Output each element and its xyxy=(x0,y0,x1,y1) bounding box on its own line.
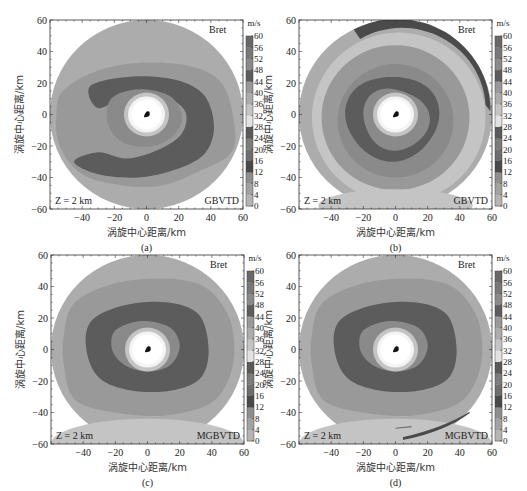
x-axis-label: 涡旋中心距离/km xyxy=(356,461,435,473)
x-tick-label: 60 xyxy=(239,447,249,458)
colorbar-tick-label: 52 xyxy=(503,54,512,64)
colorbar-tick-label: 28 xyxy=(503,122,513,132)
colorbar-band xyxy=(495,81,502,93)
y-tick-label: 40 xyxy=(286,281,296,292)
colorbar-tick-label: 24 xyxy=(503,368,513,378)
panel-caption: (d) xyxy=(390,477,402,489)
colorbar-tick-label: 4 xyxy=(503,190,508,200)
colorbar-band xyxy=(495,70,502,82)
colorbar-tick-label: 16 xyxy=(503,391,513,401)
y-tick-label: −60 xyxy=(31,204,47,215)
colorbar-tick-label: 40 xyxy=(503,323,513,333)
y-tick-label: 40 xyxy=(38,281,48,292)
colorbar-tick-label: 36 xyxy=(503,334,513,344)
colorbar-band xyxy=(495,384,502,396)
x-axis-label: 涡旋中心距离/km xyxy=(108,461,187,473)
method-label: GBVTD xyxy=(205,195,239,206)
colorbar-tick-label: 24 xyxy=(503,133,513,143)
x-tick-label: −40 xyxy=(75,447,91,458)
x-tick-label: −40 xyxy=(74,212,90,223)
colorbar-tick-label: 0 xyxy=(503,436,508,446)
colorbar-tick-label: 4 xyxy=(503,425,508,435)
colorbar-tick-label: 44 xyxy=(503,312,513,322)
x-tick-label: 20 xyxy=(175,447,185,458)
y-axis-label: 涡旋中心距离/km xyxy=(13,75,25,154)
y-tick-label: −60 xyxy=(280,439,296,450)
y-tick-label: 0 xyxy=(291,344,296,355)
y-tick-label: −20 xyxy=(31,141,47,152)
colorbar-band xyxy=(495,161,502,173)
x-tick-label: 0 xyxy=(144,212,149,223)
method-label: GBVTD xyxy=(454,195,488,206)
y-tick-label: 0 xyxy=(43,344,48,355)
colorbar-tick-label: 12 xyxy=(503,402,512,412)
panel-d: −40−2002040606040200−20−40−60 Bret Z = 2… xyxy=(249,235,512,480)
colorbar-tick-label: 40 xyxy=(503,88,513,98)
colorbar-band xyxy=(495,149,502,161)
panel-a: −40−2002040606040200−20−40−60 Bret Z = 2… xyxy=(0,0,263,245)
colorbar-tick-label: 48 xyxy=(503,300,513,310)
colorbar-band xyxy=(495,172,502,184)
level-label: Z = 2 km xyxy=(55,195,92,206)
storm-label: Bret xyxy=(210,259,227,270)
y-axis-label: 涡旋中心距离/km xyxy=(14,310,26,389)
y-tick-label: 20 xyxy=(38,313,48,324)
colorbar-tick-label: 20 xyxy=(503,380,513,390)
level-label: Z = 2 km xyxy=(304,430,341,441)
level-label: Z = 2 km xyxy=(304,195,341,206)
colorbar-tick-label: 36 xyxy=(503,99,513,109)
colorbar-band xyxy=(495,183,502,195)
y-tick-label: 60 xyxy=(38,250,48,261)
method-label: MGBVTD xyxy=(197,430,240,441)
x-tick-label: −40 xyxy=(323,212,339,223)
colorbar-band xyxy=(495,294,502,306)
colorbar-band xyxy=(495,373,502,385)
colorbar: m/s60565248444036322824201612840 xyxy=(495,18,513,211)
colorbar-tick-label: 32 xyxy=(503,346,512,356)
colorbar-band xyxy=(495,104,502,116)
colorbar-unit: m/s xyxy=(496,253,510,263)
panel-caption: (c) xyxy=(142,477,153,489)
y-tick-label: −20 xyxy=(280,141,296,152)
method-label: MGBVTD xyxy=(445,430,488,441)
level-label: Z = 2 km xyxy=(56,430,93,441)
y-tick-label: −40 xyxy=(280,172,296,183)
y-axis-label: 涡旋中心距离/km xyxy=(262,310,274,389)
colorbar-band xyxy=(495,93,502,105)
colorbar-tick-label: 32 xyxy=(503,111,512,121)
panel-svg: −40−2002040606040200−20−40−60 Bret Z = 2… xyxy=(249,0,512,245)
x-tick-label: 40 xyxy=(206,212,216,223)
colorbar-band xyxy=(495,305,502,317)
colorbar-tick-label: 0 xyxy=(503,201,508,211)
plot-area xyxy=(299,19,492,222)
colorbar-band xyxy=(495,396,502,408)
y-tick-label: 0 xyxy=(291,109,296,120)
colorbar-tick-label: 44 xyxy=(503,77,513,87)
colorbar-band xyxy=(495,407,502,419)
colorbar-tick-label: 56 xyxy=(503,278,513,288)
panel-c: −40−2002040606040200−20−40−60 Bret Z = 2… xyxy=(1,235,264,480)
y-tick-label: 40 xyxy=(37,46,47,57)
colorbar-unit: m/s xyxy=(496,18,510,28)
x-tick-label: −40 xyxy=(323,447,339,458)
x-tick-label: −20 xyxy=(356,212,372,223)
wind-field xyxy=(299,19,492,222)
x-tick-label: 40 xyxy=(455,447,465,458)
y-tick-label: −40 xyxy=(31,172,47,183)
colorbar-band xyxy=(495,115,502,127)
colorbar-band xyxy=(495,271,502,283)
colorbar-band xyxy=(495,350,502,362)
storm-label: Bret xyxy=(458,24,475,35)
colorbar-band xyxy=(495,127,502,139)
x-tick-label: 0 xyxy=(393,212,398,223)
x-tick-label: 60 xyxy=(487,212,497,223)
y-tick-label: −20 xyxy=(280,376,296,387)
x-tick-label: 0 xyxy=(393,447,398,458)
y-tick-label: −20 xyxy=(32,376,48,387)
colorbar-tick-label: 60 xyxy=(503,31,513,41)
colorbar-band xyxy=(495,282,502,294)
x-tick-label: 20 xyxy=(174,212,184,223)
y-tick-label: 60 xyxy=(37,15,47,26)
panel-svg: −40−2002040606040200−20−40−60 Bret Z = 2… xyxy=(1,235,264,480)
y-tick-label: 20 xyxy=(286,78,296,89)
